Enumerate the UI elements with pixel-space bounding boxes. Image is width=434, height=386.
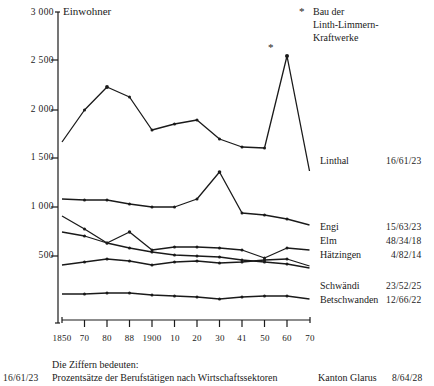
series-elm — [62, 216, 310, 258]
series-elm-markers — [83, 228, 289, 260]
y-axis — [51, 12, 60, 323]
x-tick-label-70-end: 70 — [296, 334, 324, 343]
series-value-schwaendi: 23/52/25 — [386, 282, 421, 292]
series-engi — [62, 172, 310, 225]
series-engi-markers — [83, 170, 289, 220]
footer-key-text: Prozentsätze der Berufstätigen nach Wirt… — [52, 373, 277, 383]
series-value-elm: 48/34/18 — [386, 237, 421, 247]
series-label-elm: Elm — [320, 236, 337, 246]
series-value-haetzingen: 4/82/14 — [391, 251, 421, 261]
footer-canton-label: Kanton Glarus — [318, 373, 377, 383]
population-line-chart: 3 000 2 500 2 000 1 500 1 000 500 Einwoh… — [0, 0, 434, 386]
series-betschwanden — [62, 293, 310, 299]
footer-key-code: 16/61/23 — [3, 374, 38, 384]
series-label-engi: Engi — [320, 222, 339, 232]
x-axis — [62, 317, 310, 327]
series-value-engi: 15/63/23 — [386, 223, 421, 233]
series-label-schwaendi: Schwändi — [320, 281, 359, 291]
series-label-linthal: Linthal — [320, 156, 349, 166]
series-linthal-markers — [83, 54, 289, 150]
series-label-betschwanden: Betschwanden — [320, 295, 378, 305]
series-value-betschwanden: 12/66/22 — [386, 296, 421, 306]
chart-canvas — [0, 0, 434, 386]
series-label-haetzingen: Hätzingen — [320, 250, 361, 260]
series-linthal — [62, 56, 310, 171]
series-value-linthal: 16/61/23 — [386, 157, 421, 167]
footer-canton-value: 8/64/28 — [392, 374, 422, 384]
footer-heading: Die Ziffern bedeuten: — [52, 360, 138, 370]
